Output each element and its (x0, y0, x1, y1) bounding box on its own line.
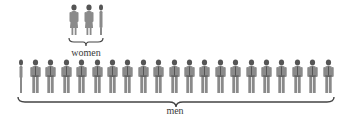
man-figure-icon (198, 59, 211, 95)
man-figure-icon (152, 59, 165, 95)
man-figure-icon (275, 59, 288, 95)
man-figure-icon (245, 59, 258, 95)
man-figure-icon (29, 59, 42, 95)
man-figure-icon (91, 59, 104, 95)
man-figure-icon (306, 59, 319, 95)
man-figure-icon (106, 59, 119, 95)
man-figure-icon (214, 59, 227, 95)
man-figure-icon (137, 59, 150, 95)
man-figure-icon (229, 59, 242, 95)
man-figure-icon (183, 59, 196, 95)
man-figure-icon (260, 59, 273, 95)
man-figure-icon (322, 59, 335, 95)
man-figure-icon (75, 59, 88, 95)
man-figure-icon (168, 59, 181, 95)
man-side-figure-icon (18, 59, 24, 95)
man-figure-icon (291, 59, 304, 95)
man-figure-icon (121, 59, 134, 95)
men-label: men (150, 105, 200, 116)
man-figure-icon (44, 59, 57, 95)
man-figure-icon (60, 59, 73, 95)
